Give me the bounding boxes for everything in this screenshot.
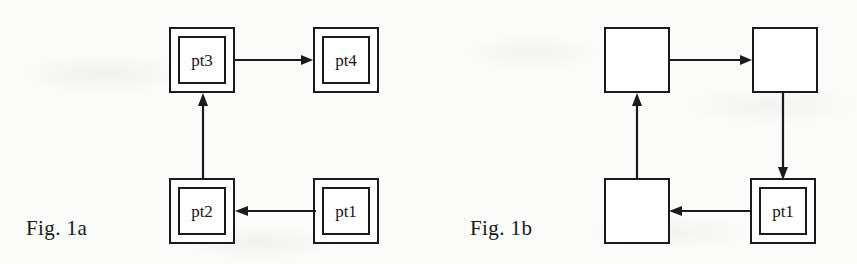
node-fig1b-pt1-inner: pt1 bbox=[759, 187, 807, 235]
edge-fig1a-pt2-to-pt3 bbox=[192, 92, 214, 180]
node-fig1b-pt1-label: pt1 bbox=[772, 203, 794, 220]
edge-fig1b-top-right-to-pt1 bbox=[772, 93, 794, 181]
node-fig1b-pt1[interactable]: pt1 bbox=[750, 178, 816, 244]
node-fig1a-pt2[interactable]: pt2 bbox=[169, 178, 235, 244]
edge-fig1a-pt3-to-pt4 bbox=[235, 49, 315, 71]
node-fig1a-pt3-label: pt3 bbox=[191, 52, 213, 69]
node-fig1a-pt4-label: pt4 bbox=[335, 52, 357, 69]
node-fig1a-pt1-inner: pt1 bbox=[322, 187, 370, 235]
node-fig1a-pt3-inner: pt3 bbox=[178, 36, 226, 84]
node-fig1a-pt2-label: pt2 bbox=[191, 203, 213, 220]
edge-fig1b-bottom-left-to-top-left bbox=[626, 92, 648, 180]
node-fig1a-pt4-inner: pt4 bbox=[322, 36, 370, 84]
node-fig1b-top-right[interactable] bbox=[752, 27, 818, 93]
node-fig1b-top-left[interactable] bbox=[604, 27, 670, 93]
figure-1b-caption: Fig. 1b bbox=[470, 216, 532, 241]
node-fig1a-pt1-label: pt1 bbox=[335, 203, 357, 220]
node-fig1a-pt1[interactable]: pt1 bbox=[313, 178, 379, 244]
edge-fig1b-pt1-to-bottom-left bbox=[668, 200, 752, 222]
scan-background-noise bbox=[0, 0, 857, 264]
edge-fig1b-top-left-to-top-right bbox=[670, 49, 754, 71]
edge-fig1a-pt1-to-pt2 bbox=[234, 200, 316, 222]
node-fig1a-pt3[interactable]: pt3 bbox=[169, 27, 235, 93]
node-fig1a-pt2-inner: pt2 bbox=[178, 187, 226, 235]
node-fig1b-bottom-left[interactable] bbox=[604, 178, 670, 244]
node-fig1a-pt4[interactable]: pt4 bbox=[313, 27, 379, 93]
figure-page: Fig. 1a pt3 pt4 pt2 pt1 bbox=[0, 0, 857, 264]
figure-1a-caption: Fig. 1a bbox=[26, 216, 87, 241]
